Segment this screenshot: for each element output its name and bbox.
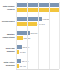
- bar-value-series2: 82,443: [19, 65, 26, 67]
- category-label: Monthly Connections: [1, 33, 16, 38]
- category-label: New Paid Signups: [1, 47, 16, 52]
- chart-row: Overall Users 703,125 574,101: [1, 16, 59, 27]
- category-label: Total Unique Viewers: [1, 5, 16, 10]
- bar-value-series1: 151,579: [22, 46, 30, 48]
- category-label: Overall Users: [1, 20, 16, 22]
- bar-value-series1: 134,644: [21, 60, 29, 62]
- category-label: Total Active Sessions: [1, 61, 16, 66]
- bar-series1[interactable]: [16, 31, 30, 35]
- bar-value-series1: 375,176: [30, 32, 38, 34]
- bar-value-series2: 84,207: [19, 51, 26, 53]
- horizontal-bar-chart: Total Unique Viewers 1,184,000 1,184,000…: [0, 0, 60, 71]
- chart-row: New Paid Signups 151,579 84,207: [1, 44, 59, 55]
- chart-row: Total Unique Viewers 1,184,000 1,184,000: [1, 2, 59, 13]
- chart-row: Total Active Sessions 134,644 82,443: [1, 58, 59, 69]
- bar-series2[interactable]: [16, 36, 23, 40]
- chart-row: Monthly Connections 375,176 182,687: [1, 30, 59, 41]
